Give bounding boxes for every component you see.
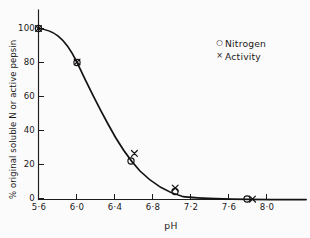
legend-label-nitrogen: Nitrogen	[225, 38, 266, 49]
x-tick-label-7-2: 7·2	[184, 202, 198, 212]
x-axis-title: pH	[164, 220, 177, 231]
legend: ○ Nitrogen × Activity	[214, 37, 266, 63]
x-tick-label-6-0: 6·0	[70, 202, 84, 212]
legend-label-activity: Activity	[225, 51, 261, 62]
x-tick-label-6-8: 6·8	[146, 202, 160, 212]
y-tick-label-100: 100	[11, 23, 35, 33]
circle-open-icon: ○	[214, 37, 225, 49]
y-tick-marks	[39, 29, 45, 199]
legend-item-nitrogen: ○ Nitrogen	[214, 37, 266, 49]
x-tick-label-7-6: 7·6	[222, 202, 236, 212]
x-tick-label-6-4: 6·4	[108, 202, 122, 212]
x-tick-label-8-0: 8·0	[260, 202, 274, 212]
cross-icon: ×	[214, 50, 225, 62]
x-tick-label-5-6: 5·6	[32, 202, 46, 212]
y-axis-title: % original soluble N or active pepsin	[8, 40, 18, 199]
chart-figure: 100 80 60 40 20 0 5·6 6·0 6·4 6·8 7·2 7·…	[0, 0, 310, 238]
legend-item-activity: × Activity	[214, 50, 266, 62]
